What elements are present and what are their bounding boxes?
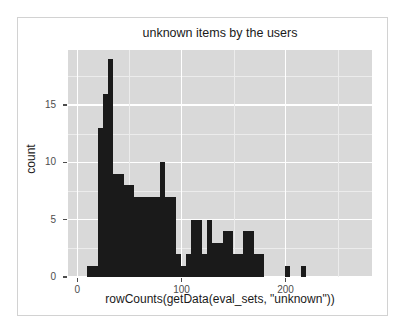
gridline-major-v [181, 50, 183, 277]
gridline-major-v [285, 50, 287, 277]
chart-figure: unknown items by the users 051015 010020… [0, 0, 405, 333]
gridline-minor-v [338, 50, 339, 277]
x-axis-label: rowCounts(getData(eval_sets, "unknown")) [45, 292, 395, 306]
gridline-major-h [68, 162, 372, 164]
plot-panel [68, 50, 372, 277]
gridline-major-h [68, 104, 372, 106]
chart-title: unknown items by the users [68, 26, 372, 40]
y-axis-label: count [24, 124, 38, 194]
histogram-bar [285, 266, 290, 277]
histogram-bar [301, 266, 306, 277]
histogram-bar [259, 254, 264, 277]
gridline-minor-v [234, 50, 235, 277]
gridline-major-v [77, 50, 79, 277]
gridline-minor-h [68, 76, 372, 77]
gridline-minor-h [68, 134, 372, 135]
